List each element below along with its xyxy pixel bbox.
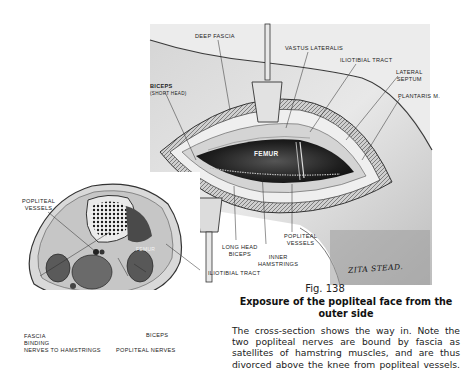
label-biceps-short-head: (SHORT HEAD): [150, 90, 187, 97]
label-deep-fascia: DEEP FASCIA: [195, 33, 235, 40]
label-lateral-septum: LATERAL SEPTUM: [396, 69, 423, 83]
label-femur-main: FEMUR: [254, 150, 279, 157]
caption-line: divorced above the knee from popliteal v…: [232, 359, 460, 370]
caption-line: satellites of hamstring muscles, and are…: [232, 347, 460, 358]
caption-line: The cross-section shows the way in. Note…: [232, 325, 460, 336]
label-biceps-short: BICEPS: [150, 83, 173, 90]
label-long-head-biceps: LONG HEAD BICEPS: [222, 244, 258, 258]
figure-number: Fig. 138: [285, 283, 365, 294]
label-popliteal-vessels-main: POPLITEAL VESSELS: [284, 233, 317, 247]
book-page: DEEP FASCIA VASTUS LATERALIS ILIOTIBIAL …: [0, 0, 462, 380]
caption-line: two popliteal nerves are bound by fascia…: [232, 336, 460, 347]
label-femur-xsec: FEMUR: [136, 246, 155, 253]
label-popliteal-nerves: POPLITEAL NERVES: [116, 347, 176, 354]
label-vastus-lateralis: VASTUS LATERALIS: [285, 45, 343, 52]
cross-section-drawing: [20, 172, 200, 290]
label-inner-hamstrings: INNER HAMSTRINGS: [258, 254, 298, 268]
figure-caption: The cross-section shows the way in. Note…: [232, 325, 460, 370]
label-biceps-xsec: BICEPS: [146, 332, 168, 339]
label-fascia-binding: FASCIA BINDING NERVES to HAMSTRINGS: [24, 333, 101, 354]
label-popliteal-vessels-xsec: POPLITEAL VESSELS: [22, 198, 55, 212]
label-plantaris: PLANTARIS M.: [398, 93, 440, 100]
label-iliotibial-tract-top: ILIOTIBIAL TRACT: [340, 57, 392, 64]
label-iliotibial-tract-bottom: ILIOTIBIAL TRACT: [208, 270, 260, 277]
figure-title: Exposure of the popliteal face from the …: [232, 296, 460, 320]
